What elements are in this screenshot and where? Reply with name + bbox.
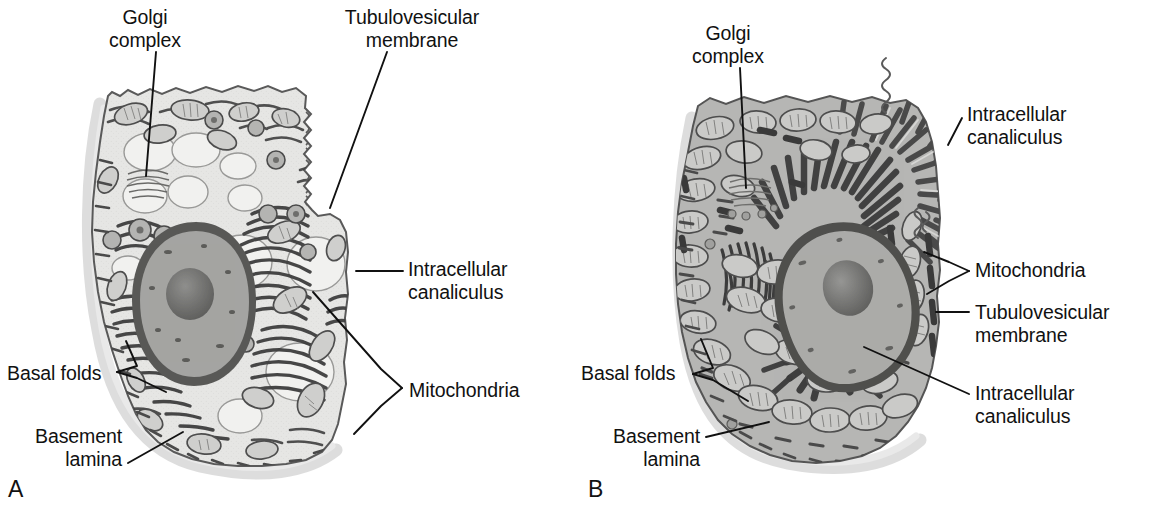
- leader-mitochondria-b-2: [927, 271, 969, 294]
- label-basement-lamina-b: Basement lamina: [580, 425, 700, 471]
- leader-basement-lamina-b: [706, 422, 769, 437]
- leader-canaliculus-basal-b: [864, 347, 969, 394]
- label-intracellular-canaliculus-basal-b: Intracellular canaliculus: [975, 382, 1127, 428]
- label-basal-folds-b: Basal folds: [581, 362, 701, 385]
- leader-mitochondria-a-2: [354, 388, 402, 434]
- label-intracellular-canaliculus-apical-b: Intracellular canaliculus: [967, 103, 1119, 149]
- panel-a: Golgi complex Tubulovesicular membrane I…: [0, 0, 580, 529]
- leader-golgi-a: [146, 52, 156, 176]
- label-basal-folds-a: Basal folds: [7, 362, 127, 385]
- leader-basal-folds-b-2: [693, 374, 748, 401]
- leader-basement-lamina-a: [128, 432, 183, 463]
- label-basement-lamina-a: Basement lamina: [4, 425, 122, 471]
- figure-canvas: Golgi complex Tubulovesicular membrane I…: [0, 0, 1160, 529]
- label-tubulovesicular-membrane-b: Tubulovesicular membrane: [975, 301, 1140, 347]
- label-golgi-complex-b: Golgi complex: [686, 22, 770, 68]
- leader-canaliculus-apical-b: [948, 118, 962, 145]
- panel-letter-b: B: [588, 478, 603, 501]
- panel-b: Golgi complex Intracellular canaliculus …: [580, 0, 1160, 529]
- leader-golgi-b: [740, 68, 746, 188]
- leader-mitochondria-a-1: [313, 292, 402, 388]
- label-mitochondria-a: Mitochondria: [409, 379, 559, 402]
- panel-letter-a: A: [8, 478, 23, 501]
- label-tubulovesicular-membrane-a: Tubulovesicular membrane: [325, 6, 499, 52]
- label-mitochondria-b: Mitochondria: [975, 259, 1125, 282]
- label-intracellular-canaliculus-a: Intracellular canaliculus: [408, 258, 558, 304]
- label-golgi-complex-a: Golgi complex: [103, 6, 187, 52]
- leader-mitochondria-b-1: [924, 252, 969, 271]
- leader-tubulovesicular-a: [330, 52, 387, 208]
